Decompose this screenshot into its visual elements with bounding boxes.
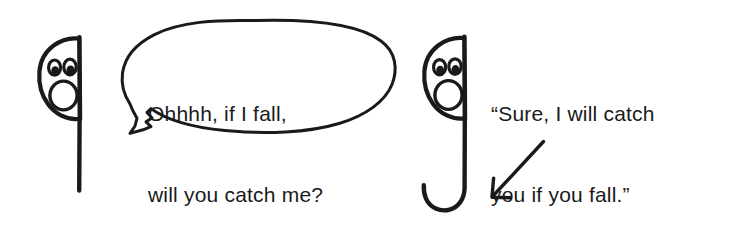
right-character-pupil-right — [452, 65, 460, 74]
left-character — [39, 37, 80, 190]
speech-bubble-line-2: will you catch me? — [148, 181, 323, 208]
left-character-pupil-left — [51, 66, 59, 75]
caption-text: “Sure, I will catch you if you fall.” — [491, 46, 655, 239]
speech-bubble-text: Ohhhh, if I fall, will you catch me? — [148, 46, 323, 239]
speech-bubble-line-1: Ohhhh, if I fall, — [148, 100, 323, 127]
left-character-head-right-edge — [79, 37, 80, 119]
left-character-mouth — [50, 81, 77, 110]
right-character-body-hook — [424, 120, 465, 211]
caption-line-1: “Sure, I will catch — [491, 100, 655, 127]
right-character — [424, 37, 465, 211]
right-character-head-right-edge — [464, 37, 465, 119]
right-character-pupil-left — [436, 66, 444, 75]
caption-line-2: you if you fall.” — [491, 181, 655, 208]
right-character-mouth — [435, 81, 462, 110]
left-character-pupil-right — [67, 66, 75, 75]
cartoon-stage: Ohhhh, if I fall, will you catch me? “Su… — [0, 0, 733, 239]
